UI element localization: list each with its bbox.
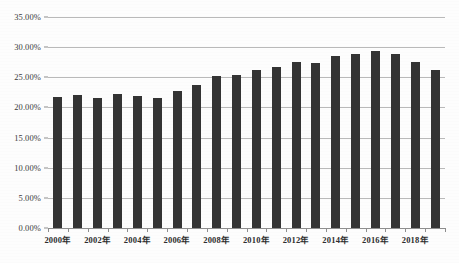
x-axis-tick [247,228,248,232]
y-axis: 0.00%5.00%10.00%15.00%20.00%25.00%30.00%… [0,0,46,263]
x-axis-tick [425,228,426,232]
x-axis-tick [227,228,228,232]
x-axis-tick [405,228,406,232]
bars-series [48,17,445,228]
x-axis-tick [286,228,287,232]
x-axis-tick [187,228,188,232]
x-axis-label: 2008年 [203,233,230,245]
x-axis-tick [207,228,208,232]
x-axis-tick [48,228,49,232]
y-axis-label: 10.00% [14,163,41,173]
y-axis-label: 5.00% [19,193,41,203]
bar [411,62,420,228]
x-axis-label: 2012年 [283,233,310,245]
y-axis-label: 15.00% [14,133,41,143]
y-axis-label: 35.00% [14,12,41,22]
x-axis-tick [147,228,148,232]
x-axis-tick [445,228,446,232]
bar [192,85,201,228]
bar [311,63,320,228]
bar-chart: 0.00%5.00%10.00%15.00%20.00%25.00%30.00%… [0,0,459,263]
x-axis-tick [306,228,307,232]
bar [232,75,241,228]
x-axis-tick [326,228,327,232]
bar [212,76,221,228]
bar [73,95,82,228]
x-axis-tick [385,228,386,232]
x-axis-label: 2006年 [164,233,191,245]
x-axis-label: 2010年 [243,233,270,245]
bar [173,91,182,228]
bar [351,54,360,228]
bar [53,97,62,228]
x-axis-label: 2016年 [362,233,389,245]
bar [133,96,142,228]
x-axis-label: 2018年 [402,233,429,245]
bar [272,67,281,228]
bar [391,54,400,228]
x-axis-label: 2014年 [322,233,349,245]
x-axis-tick [127,228,128,232]
x-axis-tick [88,228,89,232]
x-axis-labels: 2000年2002年2004年2006年2008年2010年2012年2014年… [0,233,459,259]
bar [431,70,440,228]
bar [113,94,122,228]
x-axis-tick [108,228,109,232]
x-axis-tick [167,228,168,232]
y-axis-label: 30.00% [14,42,41,52]
y-axis-label: 20.00% [14,102,41,112]
x-axis-tick [266,228,267,232]
bar [93,98,102,228]
y-axis-label: 25.00% [14,72,41,82]
x-axis-tick [346,228,347,232]
x-axis-label: 2002年 [84,233,111,245]
bar [252,70,261,228]
bar [331,56,340,228]
plot-area [48,17,445,228]
y-axis-label: 0.00% [19,223,41,233]
bar [292,62,301,228]
bar [153,98,162,228]
x-axis-tick [68,228,69,232]
x-axis-label: 2004年 [124,233,151,245]
x-axis-tick [366,228,367,232]
x-axis-label: 2000年 [44,233,71,245]
bar [371,51,380,228]
